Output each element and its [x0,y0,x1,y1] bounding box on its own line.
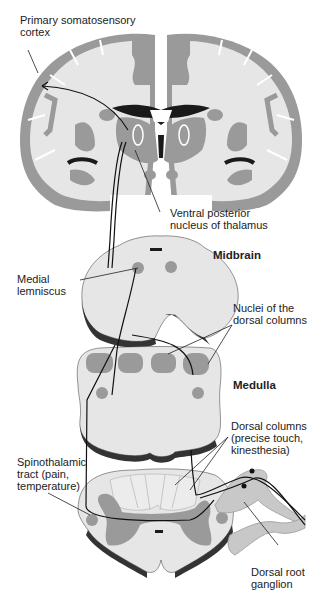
label-ventral-posterior-nucleus: Ventral posterior nucleus of thalamus [170,207,268,231]
label-dorsal-columns: Dorsal columns (precise touch, kinesthes… [231,420,307,456]
somatosensory-pathway-diagram [0,0,322,596]
label-dorsal-root-ganglion: Dorsal root ganglion [251,566,305,590]
label-medulla: Medulla [233,379,276,391]
brain-coronal-section [20,34,302,215]
medulla-section [77,347,221,463]
label-medial-lemniscus: Medial lemniscus [17,273,66,297]
label-spinothalamic-tract: Spinothalamic tract (pain, temperature) [17,456,86,492]
label-midbrain: Midbrain [213,249,261,261]
label-primary-somatosensory-cortex: Primary somatosensory cortex [20,14,136,38]
label-nuclei-dorsal-columns: Nuclei of the dorsal columns [233,302,307,326]
